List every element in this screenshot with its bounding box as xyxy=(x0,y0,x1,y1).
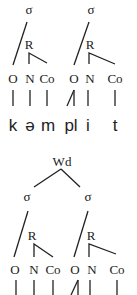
rhyme-node-2: R xyxy=(86,37,95,52)
word-node: Wd xyxy=(53,154,72,169)
coda-2: Co xyxy=(109,262,124,277)
nucleus-1: N xyxy=(25,71,35,86)
syllable-node-1: σ xyxy=(25,2,32,17)
rhyme-node-1: R xyxy=(25,37,34,52)
edge-word-sigma1 xyxy=(34,169,61,187)
nucleus-2: N xyxy=(87,262,97,277)
coda-1: Co xyxy=(39,71,54,86)
segment-i: i xyxy=(86,116,90,135)
edges-rhyme2 xyxy=(89,244,116,257)
nucleus-2: N xyxy=(85,71,95,86)
segment-k: k xyxy=(9,116,18,135)
coda-1: Co xyxy=(45,262,60,277)
onset-1: O xyxy=(8,71,17,86)
segment-schwa: ə xyxy=(25,116,34,135)
segment-t: t xyxy=(113,116,118,135)
rhyme-node-2: R xyxy=(87,228,96,243)
edges-rhyme1 xyxy=(29,53,47,64)
coda-2: Co xyxy=(107,71,122,86)
edge-sigma1-onset xyxy=(14,211,28,257)
tree-1: σ σ R R O N Co O N Co k ə m pl i t xyxy=(8,2,122,135)
segment-pl: pl xyxy=(64,116,77,135)
assoc-line xyxy=(67,90,74,106)
segment-m: m xyxy=(41,116,55,135)
edge-word-sigma2 xyxy=(61,169,80,187)
nucleus-1: N xyxy=(29,262,39,277)
syllable-node-2: σ xyxy=(87,2,94,17)
assoc-line xyxy=(71,280,78,295)
edges-rhyme1 xyxy=(34,244,53,257)
edges-rhyme2 xyxy=(89,53,115,64)
syllable-node-1: σ xyxy=(23,189,30,204)
rhyme-node-1: R xyxy=(28,228,37,243)
onset-2: O xyxy=(70,262,79,277)
syllable-node-2: σ xyxy=(84,189,91,204)
onset-1: O xyxy=(10,262,19,277)
onset-2: O xyxy=(69,71,78,86)
tree-2: Wd σ σ R R O N Co O N Co xyxy=(10,154,124,295)
syllable-structure-diagram: σ σ R R O N Co O N Co k ə m pl i t Wd σ … xyxy=(0,0,137,295)
